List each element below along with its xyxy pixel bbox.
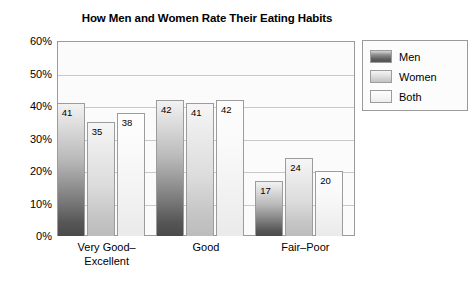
legend-item-label: Men — [399, 51, 420, 63]
y-axis-tick-label: 50% — [0, 68, 52, 80]
y-axis-tick-label: 10% — [0, 198, 52, 210]
y-axis-tick-label: 60% — [0, 35, 52, 47]
bar-men-0 — [57, 103, 85, 236]
x-axis: Very Good–ExcellentGoodFair–Poor — [57, 241, 355, 281]
x-axis-category-label: Very Good–Excellent — [57, 241, 156, 268]
x-axis-category-line: Excellent — [57, 255, 156, 269]
chart-legend: MenWomenBoth — [362, 40, 468, 111]
x-axis-category-line: Very Good– — [57, 241, 156, 255]
chart-title: How Men and Women Rate Their Eating Habi… — [57, 12, 357, 24]
bar-women-1 — [186, 103, 214, 236]
x-axis-category-label: Good — [156, 241, 255, 255]
bar-value-label: 42 — [221, 105, 232, 115]
men-swatch — [370, 50, 392, 63]
bars-layer: 413538424142172420 — [57, 41, 355, 236]
x-axis-category-label: Fair–Poor — [256, 241, 355, 255]
x-axis-category-line: Good — [156, 241, 255, 255]
legend-item-women[interactable]: Women — [370, 67, 467, 86]
y-axis-tick-label: 0% — [0, 230, 52, 242]
bar-value-label: 24 — [290, 163, 301, 173]
y-axis: 0%10%20%30%40%50%60% — [0, 41, 52, 236]
x-axis-category-line: Fair–Poor — [256, 241, 355, 255]
y-axis-tick-label: 30% — [0, 133, 52, 145]
bar-value-label: 41 — [191, 108, 202, 118]
y-axis-tick-label: 20% — [0, 165, 52, 177]
bar-value-label: 20 — [320, 176, 331, 186]
bar-women-0 — [87, 122, 115, 236]
legend-item-men[interactable]: Men — [370, 47, 467, 66]
bar-both-0 — [117, 113, 145, 237]
legend-item-label: Both — [399, 91, 422, 103]
bar-value-label: 35 — [92, 127, 103, 137]
bar-value-label: 38 — [122, 118, 133, 128]
bar-value-label: 17 — [260, 186, 271, 196]
y-axis-tick-label: 40% — [0, 100, 52, 112]
legend-item-label: Women — [399, 71, 437, 83]
bar-both-1 — [216, 100, 244, 237]
bar-value-label: 41 — [62, 108, 73, 118]
both-swatch — [370, 90, 392, 103]
bar-value-label: 42 — [161, 105, 172, 115]
bar-chart-figure: How Men and Women Rate Their Eating Habi… — [0, 0, 475, 282]
women-swatch — [370, 70, 392, 83]
legend-item-both[interactable]: Both — [370, 87, 467, 106]
bar-men-1 — [156, 100, 184, 237]
